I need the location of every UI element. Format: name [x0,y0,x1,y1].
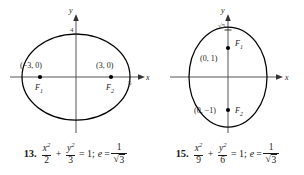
eccentricity-numerator: 1 [267,143,276,153]
term-2-numerator: y2 [65,142,76,154]
y-tick-label: √5 [218,22,226,30]
focus-1-label: F1 [234,39,243,50]
focus-2-coordinate-label: (3, 0) [96,61,114,70]
y-tick-label: 4 [70,26,74,34]
problem-13-answer: 13. x2 2 + y2 3 = 1; e = 1 √3 [0,137,152,171]
term-1-numerator: x2 [41,142,52,154]
sqrt-expression: √3 [113,154,124,166]
focus-2-label: F2 [234,106,243,117]
problem-15-number: 15. [176,149,189,160]
y-axis-arrow [225,14,231,21]
plus-operator: + [56,149,62,159]
eccentricity-fraction: 1 √3 [263,143,278,166]
y-axis-arrow [73,14,79,21]
focus-2-coordinate-label: (0, −1) [194,106,216,115]
term-1-numerator: x2 [193,142,204,154]
x-axis-label: x [284,73,289,82]
answer-key-figure-page: y x 4 5 (−3, 0) F1 (3, 0) F2 13. [0,0,304,175]
problem-13-term-1: x2 2 [41,142,52,165]
x-axis-arrow [276,74,283,80]
focus-2-point [109,75,113,79]
problem-15-panel: y x √5 F1 (0, 1) F2 (0, −1) 15. x2 [152,0,304,175]
x-tick-label: 5 [128,79,132,87]
x-axis-group [10,74,145,80]
focus-1-point [38,75,42,79]
term-2-numerator: y2 [217,142,228,154]
problem-15-term-2: y2 6 [217,142,228,165]
problem-15-figure: y x √5 F1 (0, 1) F2 (0, −1) [152,0,304,140]
eccentricity-fraction: 1 √3 [111,143,126,166]
y-axis-group [73,14,79,133]
x-axis-arrow [138,74,145,80]
term-1-denominator: 9 [194,155,203,166]
x-axis-label: x [145,73,150,82]
equals-one: = 1; [231,149,247,159]
sqrt-expression: √3 [265,154,276,166]
eccentricity-equals: = [104,149,110,159]
problem-13-term-2: y2 3 [65,142,76,165]
term-2-denominator: 3 [66,155,75,166]
eccentricity-symbol: e [250,149,254,159]
focus-1-point [226,46,230,50]
y-axis-label: y [220,6,225,15]
eccentricity-symbol: e [98,149,102,159]
problem-13-panel: y x 4 5 (−3, 0) F1 (3, 0) F2 13. [0,0,152,175]
term-2-denominator: 6 [218,155,227,166]
eccentricity-denominator: √3 [263,153,278,166]
x-axis-group [170,74,283,80]
problem-13-figure: y x 4 5 (−3, 0) F1 (3, 0) F2 [0,0,152,140]
focus-2-label: F2 [105,83,114,94]
problem-15-answer: 15. x2 9 + y2 6 = 1; e = 1 √3 [152,137,304,171]
plus-operator: + [208,149,214,159]
focus-2-point [226,108,230,112]
y-axis-group [225,14,231,133]
focus-1-label: F1 [34,83,43,94]
eccentricity-denominator: √3 [111,153,126,166]
term-1-denominator: 2 [42,155,51,166]
problem-15-term-1: x2 9 [193,142,204,165]
focus-1-coordinate-label: (−3, 0) [20,61,42,70]
y-axis-label: y [68,6,73,15]
eccentricity-equals: = [256,149,262,159]
equals-one: = 1; [79,149,95,159]
problem-13-number: 13. [24,149,37,160]
eccentricity-numerator: 1 [115,143,124,153]
focus-1-coordinate-label: (0, 1) [200,54,218,63]
